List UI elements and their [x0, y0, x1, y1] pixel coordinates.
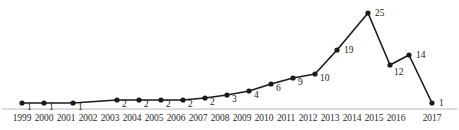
data-point-marker: [136, 97, 141, 102]
x-axis-tick-2003: 2003: [101, 113, 120, 123]
data-point-marker: [158, 97, 163, 102]
data-point-label: 1: [439, 98, 444, 108]
data-point-label: 25: [375, 8, 385, 18]
data-point-label: 9: [298, 77, 303, 87]
x-axis-tick-2017: 2017: [423, 113, 442, 123]
x-axis-tick-2001: 2001: [57, 113, 76, 123]
data-point-label: 12: [394, 67, 404, 77]
x-axis-tick-2007: 2007: [189, 113, 208, 123]
data-point-label: 2: [144, 99, 149, 109]
x-axis-tick-2004: 2004: [123, 113, 142, 123]
data-point-marker: [268, 81, 273, 86]
x-axis-tick-2006: 2006: [167, 113, 186, 123]
data-line: [22, 13, 432, 103]
x-axis-tick-2009: 2009: [233, 113, 252, 123]
x-axis-tick-2005: 2005: [145, 113, 164, 123]
line-chart: 1999200020012002200320042005200620072008…: [0, 0, 459, 130]
x-axis-tick-2016: 2016: [387, 113, 406, 123]
data-point-marker: [41, 100, 46, 105]
data-point-marker: [365, 10, 370, 15]
data-point-marker: [114, 97, 119, 102]
data-point-label: 2: [166, 99, 171, 109]
x-axis-tick-2002: 2002: [79, 113, 98, 123]
data-point-label: 6: [276, 83, 281, 93]
x-axis-tick-labels: 1999200020012002200320042005200620072008…: [0, 113, 459, 128]
data-point-label: 10: [320, 73, 330, 83]
x-axis-tick-2011: 2011: [277, 113, 295, 123]
data-point-marker: [19, 100, 24, 105]
x-axis-tick-2014: 2014: [343, 113, 362, 123]
data-point-label: 1: [49, 102, 54, 112]
x-axis-tick-2000: 2000: [35, 113, 54, 123]
data-point-marker: [429, 100, 434, 105]
x-axis-tick-2010: 2010: [255, 113, 274, 123]
data-point-marker: [202, 95, 207, 100]
data-point-label: 2: [122, 99, 127, 109]
x-axis-tick-2008: 2008: [211, 113, 230, 123]
data-point-marker: [387, 62, 392, 67]
data-point-label: 4: [254, 90, 259, 100]
data-point-marker: [290, 75, 295, 80]
data-point-marker: [334, 47, 339, 52]
data-point-label: 1: [78, 102, 83, 112]
x-axis-tick-2012: 2012: [299, 113, 318, 123]
x-axis-tick-1999: 1999: [13, 113, 32, 123]
data-point-marker: [70, 100, 75, 105]
data-point-label: 2: [210, 97, 215, 107]
x-axis-tick-2015: 2015: [365, 113, 384, 123]
data-point-marker: [180, 97, 185, 102]
data-point-marker: [312, 71, 317, 76]
data-point-label: 2: [188, 99, 193, 109]
data-point-label: 14: [416, 50, 426, 60]
data-point-marker: [224, 92, 229, 97]
data-point-label: 3: [232, 94, 237, 104]
data-point-label: 19: [344, 45, 354, 55]
data-point-marker: [406, 52, 411, 57]
x-axis-tick-2013: 2013: [321, 113, 340, 123]
chart-plot-area: [0, 0, 459, 130]
data-point-label: 1: [27, 102, 32, 112]
data-point-marker: [246, 88, 251, 93]
